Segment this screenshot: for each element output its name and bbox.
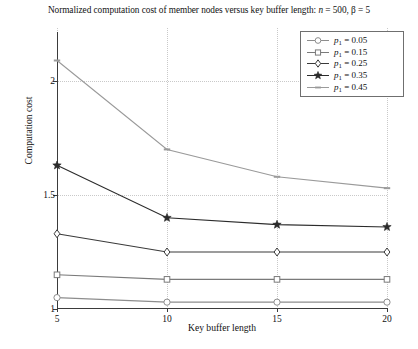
legend-marker-circle	[305, 35, 331, 46]
data-point-marker-circle	[315, 38, 321, 44]
y-tick-label: 1	[50, 304, 55, 314]
data-point-marker-circle	[384, 299, 390, 305]
series-line	[57, 298, 387, 303]
data-point-marker-square	[384, 277, 390, 283]
series-line	[57, 165, 387, 227]
legend-item[interactable]: p1 = 0.15	[305, 47, 399, 59]
y-tick-label: 1.5	[43, 190, 55, 200]
x-axis-label: Key buffer length	[57, 322, 387, 333]
legend-marker-dash	[305, 82, 331, 93]
data-point-marker-square	[54, 272, 60, 278]
data-point-marker-dash	[54, 59, 60, 61]
data-point-marker-circle	[274, 299, 280, 305]
figure: Normalized computation cost of member no…	[0, 0, 418, 349]
chart-title-beta-value: = 5	[356, 5, 370, 15]
data-point-marker-diamond	[315, 60, 320, 67]
legend-label: p1 = 0.05	[331, 35, 367, 46]
data-point-marker-star	[273, 220, 281, 228]
legend: p1 = 0.05p1 = 0.15p1 = 0.25p1 = 0.35p1 =…	[300, 31, 404, 97]
data-point-marker-dash	[164, 148, 170, 150]
data-point-marker-square	[164, 277, 170, 283]
series-line	[57, 275, 387, 280]
data-point-marker-star	[163, 213, 171, 221]
data-point-marker-diamond	[164, 248, 170, 256]
chart-title: Normalized computation cost of member no…	[0, 5, 418, 15]
data-point-marker-dash	[384, 187, 390, 189]
chart-title-n-value: = 500,	[323, 5, 351, 15]
legend-marker-square	[305, 47, 331, 58]
data-point-marker-diamond	[54, 230, 60, 238]
data-point-marker-dash	[315, 86, 321, 88]
legend-item[interactable]: p1 = 0.35	[305, 70, 399, 82]
series-line	[57, 234, 387, 252]
data-point-marker-star	[314, 72, 322, 79]
legend-item[interactable]: p1 = 0.25	[305, 58, 399, 70]
legend-label: p1 = 0.15	[331, 47, 367, 58]
data-point-marker-diamond	[384, 248, 390, 256]
data-point-marker-circle	[164, 299, 170, 305]
data-point-marker-square	[315, 50, 320, 55]
y-axis-label: Computation cost	[23, 51, 34, 211]
legend-marker-diamond	[305, 58, 331, 69]
data-point-marker-dash	[274, 176, 280, 178]
legend-label: p1 = 0.35	[331, 70, 367, 81]
legend-marker-star	[305, 70, 331, 81]
chart-title-lead: Normalized computation cost of member no…	[48, 5, 319, 15]
data-point-marker-diamond	[274, 248, 280, 256]
data-point-marker-circle	[54, 295, 60, 301]
legend-label: p1 = 0.25	[331, 58, 367, 69]
legend-item[interactable]: p1 = 0.45	[305, 81, 399, 93]
y-tick-label: 2	[50, 76, 55, 86]
data-point-marker-square	[274, 277, 280, 283]
x-tick-mark	[387, 308, 388, 312]
legend-item[interactable]: p1 = 0.05	[305, 35, 399, 47]
data-point-marker-star	[53, 161, 61, 169]
legend-label: p1 = 0.45	[331, 82, 367, 93]
